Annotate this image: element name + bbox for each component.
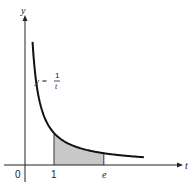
equation-denominator: t [55,82,58,91]
figure: y t 0 1 e y = 1 t [0,0,191,189]
t-axis-label: t [185,160,188,171]
equation-lhs: y = [34,76,47,86]
tick-label-e: e [102,169,107,180]
origin-label: 0 [15,169,21,180]
y-axis-label: y [20,5,26,16]
equation-numerator: 1 [55,71,60,80]
plot-svg: y t 0 1 e y = 1 t [0,0,191,189]
curve-1-over-t [33,42,144,157]
x-axis-arrow-icon [177,163,183,168]
tick-label-1: 1 [51,169,57,180]
shaded-area [54,133,104,165]
